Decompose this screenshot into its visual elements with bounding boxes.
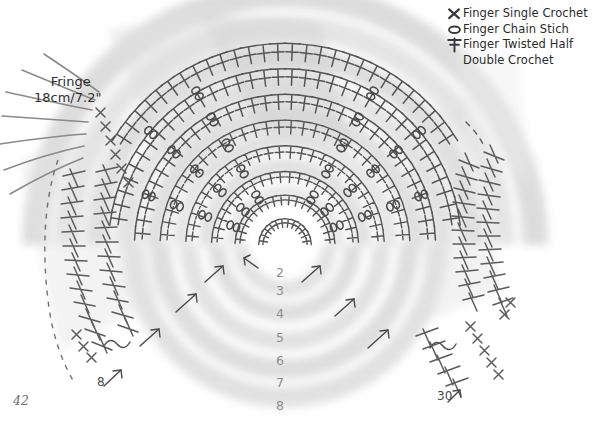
left-stitch-count: 8 bbox=[97, 375, 105, 389]
legend-item-double-crochet-continued: Double Crochet bbox=[446, 53, 596, 69]
direction-arrow-left-3 bbox=[104, 370, 122, 386]
fringe-measurement: 18cm/7.2" bbox=[34, 90, 101, 106]
legend-label-single-crochet: Finger Single Crochet bbox=[463, 6, 588, 22]
squiggle-right bbox=[430, 342, 456, 349]
row-number-8: 8 bbox=[272, 398, 288, 413]
legend-label-double-crochet: Double Crochet bbox=[463, 53, 554, 69]
legend-label-twisted-half-double: Finger Twisted Half bbox=[463, 37, 573, 53]
oval-chain-icon bbox=[446, 22, 463, 38]
legend-item-twisted-half-double: Finger Twisted Half bbox=[446, 37, 596, 53]
squiggle-left bbox=[104, 340, 130, 347]
fringe-title: Fringe bbox=[40, 74, 101, 90]
right-stitch-count: 30 bbox=[437, 389, 452, 403]
twisted-half-double-icon bbox=[446, 37, 463, 53]
row-number-4: 4 bbox=[272, 306, 288, 321]
legend-item-chain-stitch: Finger Chain Stich bbox=[446, 22, 596, 38]
diagram-page: Finger Single Crochet Finger Chain Stich… bbox=[0, 0, 597, 428]
single-crochet-cluster-right bbox=[466, 298, 515, 379]
page-number: 42 bbox=[13, 393, 29, 408]
row-number-7: 7 bbox=[272, 375, 288, 390]
row-number-5: 5 bbox=[272, 330, 288, 345]
row-number-2: 2 bbox=[272, 265, 288, 280]
row-number-6: 6 bbox=[272, 353, 288, 368]
right-bottom-ladder bbox=[416, 328, 468, 397]
row-number-3: 3 bbox=[272, 283, 288, 298]
center-glow bbox=[259, 223, 311, 267]
legend: Finger Single Crochet Finger Chain Stich… bbox=[446, 6, 596, 68]
legend-label-chain-stitch: Finger Chain Stich bbox=[463, 22, 569, 38]
cross-x-icon bbox=[446, 6, 463, 22]
fringe-label: Fringe 18cm/7.2" bbox=[40, 74, 101, 106]
legend-item-single-crochet: Finger Single Crochet bbox=[446, 6, 596, 22]
